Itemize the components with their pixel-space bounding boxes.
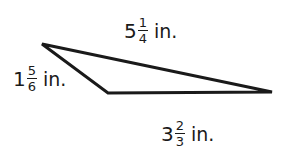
unit: in.: [43, 68, 66, 90]
denominator: 4: [139, 31, 147, 45]
whole-number: 1: [13, 67, 26, 91]
denominator: 3: [176, 134, 184, 148]
whole-number: 5: [124, 19, 137, 43]
numerator: 5: [27, 64, 37, 79]
unit: in.: [191, 123, 214, 145]
denominator: 6: [28, 79, 36, 93]
numerator: 2: [175, 119, 185, 134]
label-top-side: 5 1 4 in.: [124, 16, 177, 45]
fraction: 2 3: [175, 119, 185, 148]
numerator: 1: [138, 16, 148, 31]
fraction: 1 4: [138, 16, 148, 45]
unit: in.: [154, 20, 177, 42]
label-bottom-side: 3 2 3 in.: [161, 119, 214, 148]
whole-number: 3: [161, 122, 174, 146]
label-left-side: 1 5 6 in.: [13, 64, 66, 93]
triangle-outline: [42, 44, 272, 93]
fraction: 5 6: [27, 64, 37, 93]
